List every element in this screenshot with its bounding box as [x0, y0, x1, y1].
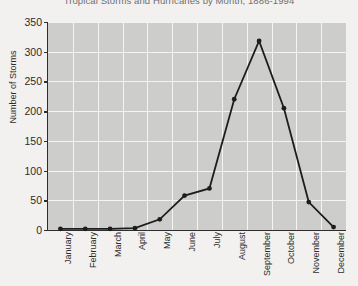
data-point: [282, 106, 287, 111]
x-axis-tick-label: June: [187, 232, 197, 284]
series-markers: [58, 39, 336, 232]
data-point: [83, 226, 88, 231]
x-axis-tick-label: March: [113, 232, 123, 284]
y-axis-tick-label: 150: [2, 135, 42, 147]
data-point: [207, 186, 212, 191]
y-axis-tick-label: 250: [2, 75, 42, 87]
chart-figure: Tropical Storms and Hurricanes by Month,…: [0, 0, 358, 286]
data-point: [257, 39, 262, 44]
data-point: [182, 193, 187, 198]
data-point: [157, 217, 162, 222]
x-axis-tick-label: February: [88, 232, 98, 284]
x-axis-tick-label: May: [162, 232, 172, 284]
plot-area: [47, 22, 346, 231]
x-axis-tick-label: July: [212, 232, 222, 284]
data-series-storms: [48, 22, 346, 230]
y-axis-tick-label: 200: [2, 105, 42, 117]
chart-title: Tropical Storms and Hurricanes by Month,…: [0, 0, 358, 6]
x-axis-tick-label: October: [286, 232, 296, 284]
y-axis-tick-label: 300: [2, 46, 42, 58]
data-point: [133, 226, 138, 231]
y-axis-tick-label: 350: [2, 16, 42, 28]
data-point: [108, 226, 113, 231]
x-axis-tick-label: November: [311, 232, 321, 284]
y-axis-tick-label: 100: [2, 165, 42, 177]
x-axis-tick-label: December: [336, 232, 346, 284]
x-axis-tick-label: August: [237, 232, 247, 284]
x-axis-tick-label: April: [137, 232, 147, 284]
x-axis-tick-label: September: [262, 232, 272, 284]
data-point: [232, 97, 237, 102]
y-axis-tick-label: 50: [2, 194, 42, 206]
x-axis-tick-label: January: [63, 232, 73, 284]
data-point: [58, 226, 63, 231]
y-axis-tick-label: 0: [2, 224, 42, 236]
data-point: [331, 225, 336, 230]
series-line: [60, 41, 333, 229]
y-axis-tick-mark: [44, 230, 48, 231]
data-point: [306, 200, 311, 205]
